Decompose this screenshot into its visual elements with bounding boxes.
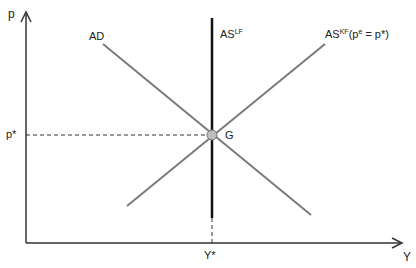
x-axis-label: Y [403,251,411,263]
y-star-tick-label: Y* [204,250,216,261]
y-axis-label: p [8,8,15,20]
p-star-tick-label: p* [6,129,16,140]
equilibrium-point [207,130,217,140]
ad-as-diagram [0,0,416,268]
as-lf-label: ASLF [220,28,243,40]
as-kf-curve [127,44,325,206]
equilibrium-label: G [225,130,234,141]
ad-curve [103,44,311,215]
ad-label: AD [89,31,104,42]
as-kf-label: ASKF(pe = p*) [325,28,389,40]
